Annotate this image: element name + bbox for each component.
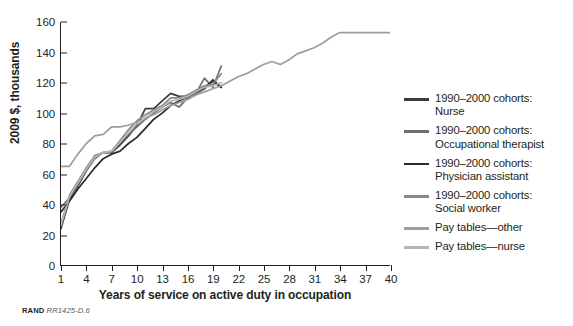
legend-line-swatch <box>404 130 429 133</box>
x-tick-mark <box>340 265 341 271</box>
plot-lines <box>61 22 390 265</box>
x-tick-label: 19 <box>207 273 220 285</box>
report-id: RR1425-D.6 <box>47 306 90 315</box>
legend-label: 1990–2000 cohorts: Occupational therapis… <box>435 124 544 151</box>
legend-item[interactable]: 1990–2000 cohorts: Physician assistant <box>404 157 572 184</box>
x-tick-mark <box>213 265 214 271</box>
y-tick-label: 40 <box>42 199 55 211</box>
legend-line-swatch <box>404 195 429 198</box>
y-tick-label: 80 <box>42 138 55 150</box>
y-tick-label: 100 <box>36 108 55 120</box>
x-tick-label: 16 <box>182 273 195 285</box>
y-tick-mark <box>61 144 67 145</box>
x-tick-label: 31 <box>309 273 322 285</box>
legend-label: Pay tables—nurse <box>435 240 525 253</box>
legend-label: 1990–2000 cohorts: Nurse <box>435 92 532 119</box>
y-tick-label: 20 <box>42 230 55 242</box>
y-tick-label: 60 <box>42 169 55 181</box>
chart-legend: 1990–2000 cohorts: Nurse1990–2000 cohort… <box>404 92 572 259</box>
x-tick-label: 25 <box>258 273 271 285</box>
legend-line-swatch <box>404 98 429 101</box>
legend-label: 1990–2000 cohorts: Physician assistant <box>435 157 532 184</box>
y-tick-mark <box>61 174 67 175</box>
x-tick-mark <box>86 265 87 271</box>
legend-line-swatch <box>404 227 429 230</box>
y-tick-mark <box>61 235 67 236</box>
x-tick-label: 22 <box>232 273 245 285</box>
x-tick-mark <box>289 265 290 271</box>
figure-container: 2009 $, thousands 0204060801001201401601… <box>0 0 573 326</box>
x-axis-title: Years of service on active duty in occup… <box>60 288 390 302</box>
source-note: RAND RR1425-D.6 <box>22 306 90 315</box>
y-tick-mark <box>61 113 67 114</box>
x-tick-mark <box>163 265 164 271</box>
y-axis-title: 2009 $, thousands <box>8 42 22 144</box>
series-line <box>61 74 221 224</box>
y-tick-label: 140 <box>36 47 55 59</box>
x-tick-mark <box>315 265 316 271</box>
legend-line-swatch <box>404 246 429 249</box>
y-tick-mark <box>61 22 67 23</box>
x-tick-mark <box>137 265 138 271</box>
x-tick-label: 1 <box>58 273 64 285</box>
series-line <box>61 66 221 207</box>
plot-area: 0204060801001201401601471013161922252831… <box>60 22 390 266</box>
y-tick-mark <box>61 52 67 53</box>
series-line <box>61 80 221 229</box>
legend-item[interactable]: 1990–2000 cohorts: Occupational therapis… <box>404 124 572 151</box>
x-tick-mark <box>239 265 240 271</box>
y-tick-label: 160 <box>36 16 55 28</box>
x-tick-label: 40 <box>385 273 398 285</box>
x-tick-mark <box>264 265 265 271</box>
y-tick-label: 120 <box>36 77 55 89</box>
x-tick-label: 37 <box>359 273 372 285</box>
legend-label: Pay tables—other <box>435 221 522 234</box>
x-tick-mark <box>61 265 62 271</box>
legend-label: 1990–2000 cohorts: Social worker <box>435 189 532 216</box>
legend-item[interactable]: 1990–2000 cohorts: Nurse <box>404 92 572 119</box>
legend-line-swatch <box>404 163 429 166</box>
series-line <box>61 33 390 167</box>
x-tick-label: 28 <box>283 273 296 285</box>
y-tick-mark <box>61 83 67 84</box>
x-tick-label: 13 <box>156 273 169 285</box>
y-tick-label: 0 <box>49 260 55 272</box>
x-tick-label: 7 <box>109 273 115 285</box>
x-tick-mark <box>391 265 392 271</box>
rand-wordmark: RAND <box>22 306 44 315</box>
series-line <box>61 81 221 212</box>
y-tick-mark <box>61 205 67 206</box>
legend-item[interactable]: Pay tables—nurse <box>404 240 572 253</box>
x-tick-label: 4 <box>83 273 89 285</box>
x-tick-mark <box>188 265 189 271</box>
x-tick-label: 10 <box>131 273 144 285</box>
legend-item[interactable]: 1990–2000 cohorts: Social worker <box>404 189 572 216</box>
x-tick-mark <box>366 265 367 271</box>
series-line <box>61 83 221 226</box>
x-tick-mark <box>112 265 113 271</box>
legend-item[interactable]: Pay tables—other <box>404 221 572 234</box>
x-tick-label: 34 <box>334 273 347 285</box>
